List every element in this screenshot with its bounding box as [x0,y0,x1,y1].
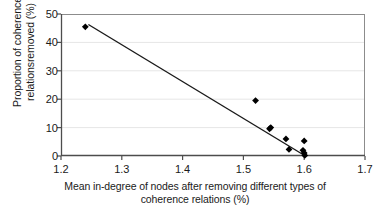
x-tick-label-1_7: 1.7 [345,164,385,175]
x-tick-label-1_2: 1.2 [41,164,81,175]
x-tick-label-1_5: 1.5 [223,164,263,175]
x-axis-title: Mean in-degree of nodes after removing d… [20,180,370,206]
x-tick-label-1_3: 1.3 [102,164,142,175]
x-axis-title-line2: coherence relations (%) [20,193,370,206]
x-tick-label-1_4: 1.4 [163,164,203,175]
x-axis-title-line1: Mean in-degree of nodes after removing d… [20,180,370,193]
x-tick-label-1_6: 1.6 [284,164,324,175]
chart-figure: Proportion of coherence relationsremoved… [0,0,390,218]
